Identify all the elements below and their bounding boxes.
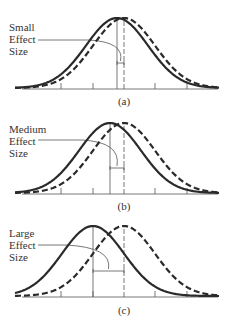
panel-c-leader-line: [38, 245, 109, 269]
panel-b-caption: (b): [109, 200, 139, 212]
panel-a-label-line-3: Size: [9, 45, 36, 57]
panel-c-label-line-1: Large: [9, 227, 36, 239]
panel-a-annotation: Small Effect Size: [9, 21, 36, 57]
panel-c-solid-curve: [15, 226, 219, 296]
panel-c-label-line-2: Effect: [9, 239, 36, 251]
panel-b-label-line-2: Effect: [9, 135, 46, 147]
panel-b-label-line-1: Medium: [9, 123, 46, 135]
effect-size-figure: Small Effect Size (a) Medium Effect Size…: [0, 0, 234, 328]
panel-b-annotation: Medium Effect Size: [9, 123, 46, 159]
panel-c-caption: (c): [109, 304, 139, 316]
panel-a-caption: (a): [109, 95, 139, 107]
panel-a-label-line-2: Effect: [9, 33, 36, 45]
panel-b-label-line-3: Size: [9, 147, 46, 159]
panel-a-label-line-1: Small: [9, 21, 36, 33]
panel-c-label-line-3: Size: [9, 251, 36, 263]
panel-c-annotation: Large Effect Size: [9, 227, 36, 263]
panel-a-leader-line: [38, 40, 121, 61]
panel-c-dashed-curve: [15, 226, 219, 296]
